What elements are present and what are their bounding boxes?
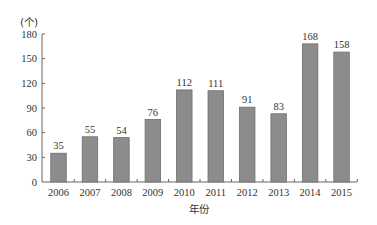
x-tick-label: 2006 — [48, 187, 69, 198]
x-tick-label: 2010 — [174, 187, 195, 198]
y-tick-label: 90 — [27, 103, 38, 114]
x-tick-label: 2008 — [111, 187, 132, 198]
data-label-2011: 111 — [208, 78, 223, 89]
y-tick-label: 150 — [21, 53, 37, 64]
x-tick-label: 2009 — [142, 187, 163, 198]
bar-2007 — [82, 137, 98, 182]
data-label-2009: 76 — [148, 107, 159, 118]
bar-2014 — [302, 44, 318, 182]
y-tick-label: 180 — [21, 29, 37, 40]
y-axis-unit-label: (个) — [20, 16, 38, 28]
bar-2010 — [177, 90, 193, 182]
y-tick-label: 60 — [27, 127, 38, 138]
x-tick-label: 2012 — [237, 187, 258, 198]
bars — [51, 44, 350, 182]
bar-2006 — [51, 153, 67, 182]
data-label-2014: 168 — [302, 31, 318, 42]
x-tick-label: 2007 — [79, 187, 100, 198]
bar-2009 — [145, 120, 161, 182]
x-axis-title: 年份 — [189, 203, 210, 215]
bar-chart: 0306090120150180 20062007200820092010201… — [0, 0, 377, 225]
data-label-2006: 35 — [53, 140, 64, 151]
bar-2011 — [208, 91, 224, 182]
bar-2012 — [239, 107, 255, 182]
x-tick-label: 2015 — [331, 187, 352, 198]
data-label-2015: 158 — [334, 39, 350, 50]
y-axis: 0306090120150180 — [21, 29, 45, 188]
data-label-2013: 83 — [273, 101, 284, 112]
bar-2015 — [334, 52, 350, 182]
bar-2008 — [114, 138, 129, 182]
x-tick-label: 2011 — [205, 187, 226, 198]
y-tick-label: 0 — [32, 177, 37, 188]
data-label-2012: 91 — [242, 94, 253, 105]
bar-2013 — [271, 114, 287, 182]
x-tick-label: 2013 — [268, 187, 289, 198]
y-tick-label: 30 — [27, 152, 38, 163]
data-label-2008: 54 — [116, 125, 127, 136]
data-label-2010: 112 — [177, 77, 192, 88]
data-label-2007: 55 — [85, 124, 96, 135]
x-tick-label: 2014 — [300, 187, 322, 198]
y-tick-label: 120 — [21, 78, 37, 89]
